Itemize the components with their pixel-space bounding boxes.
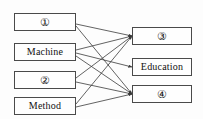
node-box-l1[interactable]: ① xyxy=(14,13,76,31)
node-box-l2[interactable]: Machine xyxy=(14,43,76,61)
node-label: Machine xyxy=(27,47,63,57)
node-label: ① xyxy=(40,16,50,27)
node-box-l4[interactable]: Method xyxy=(14,97,76,115)
mapping-diagram: ①Machine②Method ③Education④ xyxy=(0,0,203,119)
node-box-r3[interactable]: ④ xyxy=(132,85,192,103)
edge-l3-to-r1 xyxy=(76,36,132,78)
node-label: Education xyxy=(141,62,183,72)
node-label: ② xyxy=(40,74,50,85)
node-label: Method xyxy=(29,101,61,111)
edge-l4-to-r1 xyxy=(76,36,132,104)
node-box-l3[interactable]: ② xyxy=(14,71,76,89)
edge-l2-to-r2 xyxy=(76,53,132,67)
edge-group xyxy=(76,24,132,107)
edge-l4-to-r3 xyxy=(76,94,132,107)
edge-l1-to-r1 xyxy=(76,24,132,36)
node-label: ③ xyxy=(157,30,167,41)
edge-l2-to-r1 xyxy=(76,36,132,50)
node-box-r1[interactable]: ③ xyxy=(132,27,192,45)
node-label: ④ xyxy=(157,88,167,99)
node-box-r2[interactable]: Education xyxy=(132,58,192,76)
